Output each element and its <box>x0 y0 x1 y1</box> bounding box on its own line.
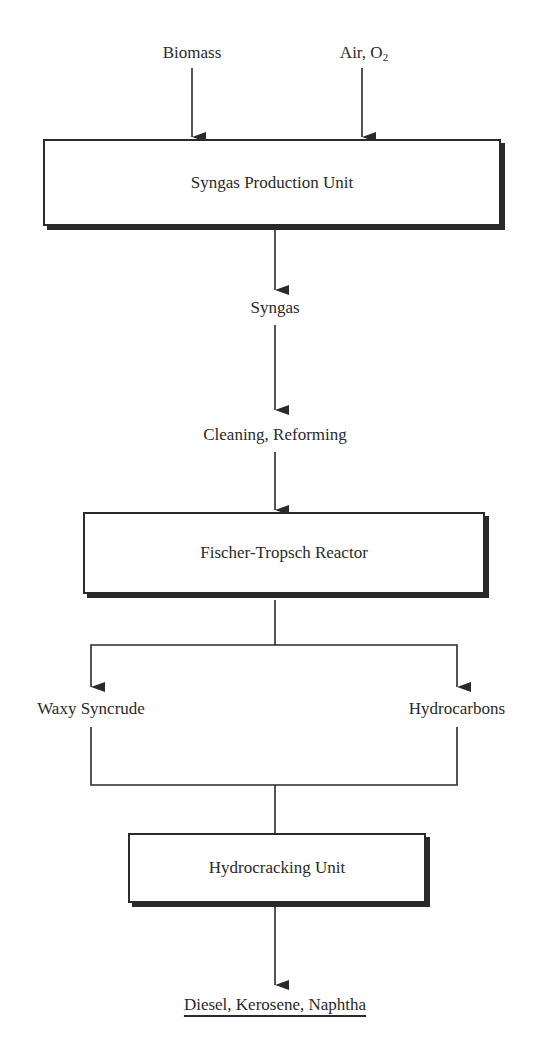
hydrocarbons-branch <box>275 645 457 687</box>
fischer-tropsch-reactor: Fischer-Tropsch Reactor <box>83 512 485 594</box>
biomass-label: Biomass <box>163 44 222 61</box>
hydrocarbons-label: Hydrocarbons <box>409 700 505 717</box>
waxy-syncrude-label: Waxy Syncrude <box>37 700 145 717</box>
cleaning-reforming-label: Cleaning, Reforming <box>203 426 347 443</box>
fischer-tropsch-label: Fischer-Tropsch Reactor <box>200 543 368 563</box>
merge-line <box>91 727 457 785</box>
syngas-production-unit: Syngas Production Unit <box>43 139 501 226</box>
waxy-branch <box>91 645 275 687</box>
hydrocracking-unit: Hydrocracking Unit <box>128 833 426 903</box>
syngas-label: Syngas <box>250 299 299 316</box>
air-o2-label: Air, O2 <box>340 44 388 63</box>
o2-subscript: 2 <box>383 51 389 63</box>
air-text: Air, O <box>340 43 383 62</box>
syngas-production-label: Syngas Production Unit <box>191 173 353 193</box>
final-products-label: Diesel, Kerosene, Naphtha <box>184 996 366 1013</box>
hydrocracking-label: Hydrocracking Unit <box>209 858 345 878</box>
